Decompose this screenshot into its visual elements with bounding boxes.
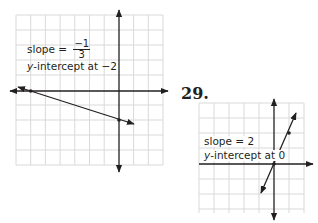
left-grid — [16, 15, 163, 165]
left-slope-label: slope = −13 — [27, 39, 90, 60]
graphs-canvas — [0, 0, 318, 223]
left-graph — [10, 10, 168, 172]
right-slope-label: slope = 2 — [203, 136, 255, 147]
slope-prefix: slope = — [27, 43, 70, 55]
intercept-text: -intercept at 0 — [210, 149, 285, 161]
left-point-y-intercept — [117, 118, 121, 122]
right-point-1-2 — [287, 131, 291, 135]
left-intercept-label: y-intercept at −2 — [27, 61, 117, 72]
slope-fraction: −13 — [73, 39, 90, 60]
intercept-text: -intercept at −2 — [33, 60, 117, 72]
problem-number: 29. — [181, 84, 209, 103]
right-point-origin — [272, 162, 276, 166]
left-point-x-intercept — [29, 89, 33, 93]
slope-denominator: 3 — [73, 50, 90, 60]
right-intercept-label: y-intercept at 0 — [203, 150, 286, 161]
